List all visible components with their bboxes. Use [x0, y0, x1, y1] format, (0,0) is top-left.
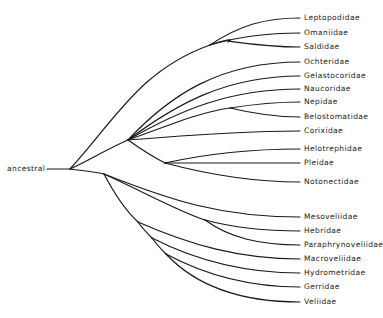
branch-macroveliidae: [138, 222, 300, 259]
taxon-label-ochteridae: Ochteridae: [304, 58, 349, 66]
taxon-label-pleidae: Pleidae: [304, 159, 334, 167]
branch-hydrometridae: [152, 238, 300, 273]
taxon-label-macroveliidae: Macroveliidae: [304, 255, 361, 263]
taxon-label-hydrometridae: Hydrometridae: [304, 269, 366, 277]
branch-gerrid-veliid: [152, 238, 166, 254]
branch-corixidae: [128, 131, 300, 140]
branch-belostomatidae: [230, 108, 300, 117]
branch-saldidae: [228, 41, 300, 47]
taxon-label-hebridae: Hebridae: [304, 227, 341, 235]
branch-notonectoid-stem: [128, 140, 165, 163]
taxon-label-naucoridae: Naucoridae: [304, 85, 351, 93]
branch-leptopodoid-clade: [70, 45, 210, 169]
taxon-label-corixidae: Corixidae: [304, 127, 343, 135]
taxon-label-mesoveliidae: Mesoveliidae: [304, 213, 358, 221]
taxon-label-helotrephidae: Helotrephidae: [304, 145, 362, 153]
branch-veliidae: [166, 254, 300, 302]
taxon-label-nepidae: Nepidae: [304, 98, 338, 106]
branch-omaniidae: [210, 33, 300, 45]
branch-notonectidae: [165, 163, 300, 182]
taxon-label-gelastocoridae: Gelastocoridae: [304, 72, 366, 80]
root-label: ancestral: [7, 165, 45, 173]
taxon-label-notonectidae: Notonectidae: [304, 178, 359, 186]
taxon-label-paraphrynoveliidae: Paraphrynoveliidae: [304, 241, 383, 249]
taxon-label-belostomatidae: Belostomatidae: [304, 113, 368, 121]
taxon-label-omaniidae: Omaniidae: [304, 29, 348, 37]
taxon-label-gerridae: Gerridae: [304, 283, 340, 291]
taxon-label-saldidae: Saldidae: [304, 43, 339, 51]
branch-nepidae: [230, 102, 300, 108]
branch-nepomorpha-stem: [70, 140, 128, 169]
branch-hebrid-paraphrynoveliid: [104, 174, 205, 220]
branch-helotrephidae: [165, 149, 300, 163]
taxon-label-veliidae: Veliidae: [304, 298, 337, 306]
taxon-label-leptopodidae: Leptopodidae: [304, 14, 360, 22]
branch-gerromorpha-stem: [70, 169, 104, 174]
